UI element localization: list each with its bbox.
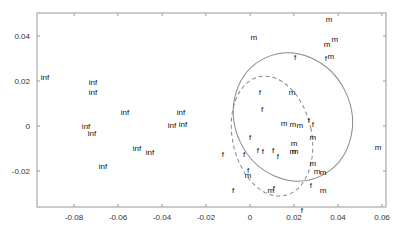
x-tick-label: 0.06 [374,213,390,222]
point-label-inf: inf [146,148,155,157]
point-label-m: m [290,120,297,129]
point-label-m: m [310,133,317,142]
x-axis: -0.08-0.06-0.04-0.0200.020.040.06 [65,13,390,222]
point-label-inf: inf [177,108,186,117]
point-label-inf: inf [133,144,142,153]
point-label-f: f [261,105,264,114]
data-points: infinfinfinfinfinfinfinfinfinfinfinfmmmm… [41,15,382,215]
point-label-m: m [324,40,331,49]
point-label-f: f [308,116,311,125]
scatter-plot: -0.08-0.06-0.04-0.0200.020.040.06 0.040.… [0,0,404,234]
point-label-f: f [262,147,265,156]
point-label-inf: inf [89,78,98,87]
point-label-m: m [328,52,335,61]
x-tick-label: -0.06 [109,213,128,222]
y-tick-label: 0.04 [14,32,30,41]
point-label-f: f [259,88,262,97]
point-label-m: m [320,168,327,177]
solid-ellipse [212,33,373,201]
point-label-inf: inf [179,120,188,129]
x-tick-label: 0.04 [330,213,346,222]
point-label-f: f [249,133,252,142]
point-label-inf: inf [89,88,98,97]
point-label-m: m [292,147,299,156]
point-label-m: m [289,88,296,97]
x-tick-label: -0.08 [65,213,84,222]
point-label-inf: inf [99,162,108,171]
confidence-ellipses [212,33,373,204]
point-label-inf: inf [121,108,130,117]
point-label-m: m [326,15,333,24]
point-label-f: f [294,53,297,62]
x-tick-label: -0.04 [153,213,172,222]
point-label-m: m [320,186,327,195]
point-label-m: m [375,143,382,152]
y-tick-label: 0.02 [14,77,30,86]
y-tick-label: -0.02 [12,167,31,176]
y-tick-label: 0 [26,122,31,131]
point-label-f: f [257,146,260,155]
x-tick-label: -0.02 [197,213,216,222]
point-label-m: m [297,121,304,130]
point-label-f: f [232,186,235,195]
point-label-m: m [251,33,258,42]
point-label-f: f [310,181,313,190]
point-label-m: m [281,119,288,128]
point-label-m: m [332,35,339,44]
point-label-f: f [312,120,315,129]
point-label-f: f [277,152,280,161]
point-label-inf: inf [168,121,177,130]
point-label-inf: inf [41,73,50,82]
point-label-inf: inf [88,129,97,138]
point-label-f: f [273,184,276,193]
point-label-f: f [222,150,225,159]
point-label-f: f [272,146,275,155]
x-tick-label: 0 [248,213,253,222]
